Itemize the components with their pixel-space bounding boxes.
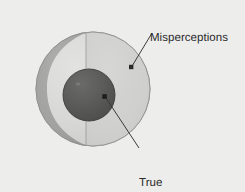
label-true-incompatibility-line1: True [139,177,212,191]
inner-sphere-body [63,69,115,121]
true-incompatibility-leader-dot [102,94,107,99]
label-misperceptions-text: Misperceptions [150,32,228,44]
label-misperceptions: Misperceptions [137,18,228,59]
figure-canvas: Misperceptions True incompatibility [0,0,245,192]
label-true-incompatibility: True incompatibility [139,150,212,192]
misperceptions-leader-dot [129,65,133,69]
inner-sphere-highlight [76,82,80,85]
inner-sphere-group [63,69,115,121]
